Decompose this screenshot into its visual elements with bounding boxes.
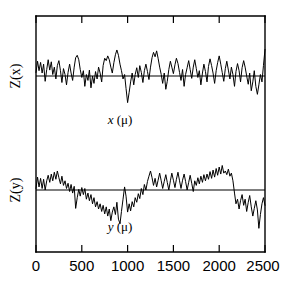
- upper-panel-y-axis-label: Z(x): [8, 63, 24, 88]
- x-tick-label-1: 500: [69, 257, 94, 274]
- x-tick-label-0: 0: [32, 257, 40, 274]
- lower-panel-y-axis-label: Z(y): [8, 177, 24, 202]
- figure-root: Z(x) Z(y) x (μ) y (μ) 0 500 1000 1500 20…: [0, 0, 287, 285]
- x-tick-label-5: 2500: [246, 257, 279, 274]
- x-tick-label-2: 1000: [111, 257, 144, 274]
- chart-background: [0, 0, 287, 285]
- x-tick-label-4: 2000: [203, 257, 236, 274]
- lower-panel-inline-x-label: y (μ): [106, 219, 133, 234]
- upper-panel-inline-x-units: (μ): [117, 112, 133, 127]
- lower-panel-inline-x-units: (μ): [117, 219, 133, 234]
- profile-chart: Z(x) Z(y) x (μ) y (μ) 0 500 1000 1500 20…: [0, 0, 287, 285]
- x-tick-label-3: 1500: [157, 257, 190, 274]
- upper-panel-inline-x-label: x (μ): [107, 112, 133, 127]
